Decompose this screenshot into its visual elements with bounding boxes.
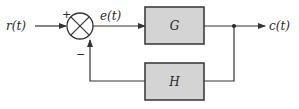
feedback-block-h: H: [145, 63, 204, 100]
block-diagram: r(t) + e(t) G c(t) H −: [0, 0, 299, 109]
feedback-block-label: H: [168, 75, 180, 89]
minus-sign: −: [76, 48, 85, 61]
feedback-path-right: [204, 26, 234, 81]
output-label: c(t): [269, 19, 290, 33]
summing-junction-icon: [67, 13, 93, 39]
input-label: r(t): [6, 19, 26, 33]
forward-block-label: G: [170, 19, 180, 33]
feedback-path-left: [90, 40, 145, 81]
error-label: e(t): [100, 9, 122, 23]
forward-block-g: G: [145, 7, 204, 44]
